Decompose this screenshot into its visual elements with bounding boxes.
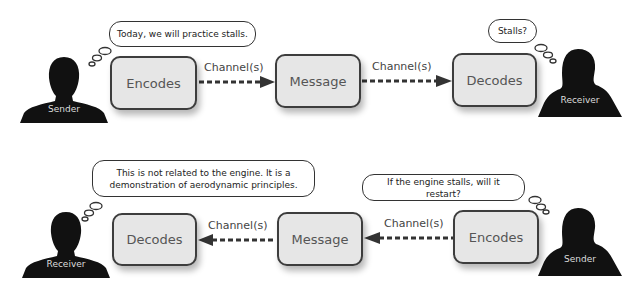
channel-label-bottom-2: Channel(s) — [384, 217, 443, 230]
channel-label-bottom-1: Channel(s) — [208, 219, 267, 232]
encodes-box-bottom: Encodes — [453, 210, 539, 264]
receiver-label: Receiver — [22, 259, 110, 269]
arrow-top-2 — [362, 75, 452, 87]
decodes-box-top: Decodes — [452, 53, 537, 107]
message-box-bottom: Message — [277, 212, 363, 266]
sender-silhouette-top: Sender — [20, 55, 108, 123]
arrow-top-1 — [199, 76, 275, 88]
sender-label: Sender — [20, 104, 108, 114]
receiver-thought-bubble-bottom: This is not related to the engine. It is… — [92, 160, 315, 197]
arrow-bottom-2 — [364, 232, 453, 244]
decodes-box-bottom: Decodes — [112, 213, 197, 266]
sender-label: Sender — [538, 254, 622, 264]
person-icon — [538, 47, 622, 117]
receiver-label: Receiver — [538, 95, 622, 105]
channel-label-top-1: Channel(s) — [204, 61, 263, 74]
channel-label-top-2: Channel(s) — [372, 60, 431, 73]
arrow-bottom-1 — [198, 234, 276, 246]
encodes-box-top: Encodes — [110, 56, 197, 110]
sender-thought-bubble-bottom: If the engine stalls, will it restart? — [362, 174, 525, 201]
sender-thought-bubble-top: Today, we will practice stalls. — [109, 21, 256, 47]
sender-silhouette-bottom: Sender — [538, 206, 622, 276]
receiver-thought-bubble-top: Stalls? — [488, 19, 537, 43]
message-box-top: Message — [275, 54, 361, 108]
receiver-silhouette-bottom: Receiver — [22, 210, 110, 278]
receiver-silhouette-top: Receiver — [538, 47, 622, 117]
person-icon — [538, 206, 622, 276]
